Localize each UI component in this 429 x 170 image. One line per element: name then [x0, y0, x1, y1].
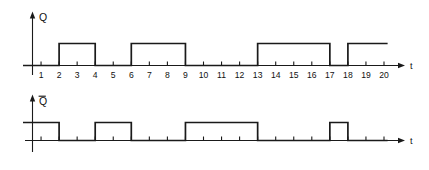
- qbar-time-axis-label: t: [410, 136, 413, 146]
- tick-label: 12: [235, 70, 245, 80]
- tick-label: 3: [75, 70, 80, 80]
- tick-label: 15: [289, 70, 299, 80]
- tick-label: 11: [217, 70, 226, 80]
- tick-label: 8: [165, 70, 170, 80]
- tick-label: 1: [39, 70, 44, 80]
- qbar-plot: Q t: [23, 95, 413, 153]
- q-tick-labels: 1234567891011121314151617181920: [39, 70, 389, 80]
- tick-label: 6: [129, 70, 134, 80]
- tick-label: 16: [307, 70, 317, 80]
- qbar-time-axis-arrowhead: [398, 138, 405, 143]
- tick-label: 13: [253, 70, 263, 80]
- tick-label: 7: [147, 70, 152, 80]
- timing-diagram-figure: Q t 1234567891011121314151617181920 Q t: [0, 0, 429, 170]
- q-time-axis-arrowhead: [398, 63, 405, 68]
- qbar-signal-label: Q: [39, 95, 47, 107]
- tick-label: 2: [57, 70, 62, 80]
- tick-label: 17: [325, 70, 335, 80]
- tick-label: 14: [271, 70, 281, 80]
- q-time-axis-label: t: [410, 61, 413, 71]
- q-signal-label: Q: [39, 11, 47, 23]
- tick-label: 9: [183, 70, 188, 80]
- q-plot: Q t 1234567891011121314151617181920: [23, 11, 413, 80]
- tick-label: 5: [111, 70, 116, 80]
- tick-label: 20: [379, 70, 389, 80]
- tick-label: 4: [93, 70, 98, 80]
- tick-label: 18: [343, 70, 353, 80]
- tick-label: 10: [199, 70, 209, 80]
- q-vertical-axis-arrowhead: [30, 12, 35, 19]
- tick-label: 19: [361, 70, 371, 80]
- qbar-vertical-axis-arrowhead: [30, 95, 35, 102]
